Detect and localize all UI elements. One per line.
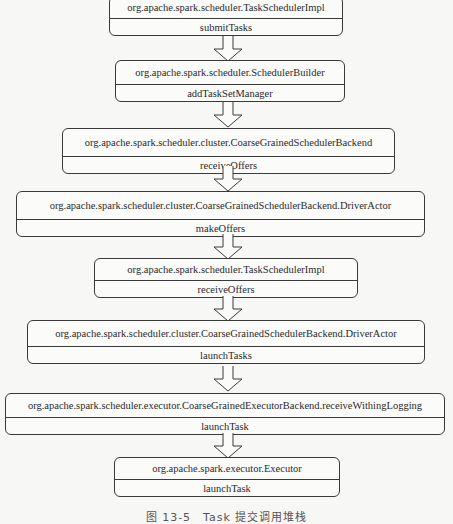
down-arrow-icon: [211, 433, 245, 459]
node-method-label: launchTasks: [28, 347, 424, 363]
node-method-label: launchTask: [115, 480, 339, 496]
node-driver-actor-launch-tasks: org.apache.spark.scheduler.cluster.Coars…: [27, 320, 425, 364]
down-arrow-icon: [211, 166, 245, 192]
node-class-label: org.apache.spark.scheduler.cluster.Coars…: [63, 129, 394, 157]
node-task-scheduler-impl-receive: org.apache.spark.scheduler.TaskScheduler…: [94, 258, 358, 298]
node-class-label: org.apache.spark.executor.Executor: [115, 458, 339, 480]
node-method-label: launchTask: [6, 418, 444, 434]
down-arrow-icon: [211, 102, 245, 128]
down-arrow-icon: [211, 296, 245, 322]
node-driver-actor-make-offers: org.apache.spark.scheduler.cluster.Coars…: [16, 191, 425, 237]
node-class-label: org.apache.spark.scheduler.cluster.Coars…: [28, 321, 424, 347]
down-arrow-icon: [211, 234, 245, 260]
node-class-label: org.apache.spark.scheduler.executor.Coar…: [6, 394, 444, 418]
down-arrow-icon: [211, 36, 245, 62]
node-method-label: receiveOffers: [95, 281, 357, 297]
figure-caption: 图 13-5 Task 提交调用堆栈: [0, 508, 453, 524]
node-coarse-grained-executor-backend: org.apache.spark.scheduler.executor.Coar…: [5, 393, 445, 435]
node-class-label: org.apache.spark.scheduler.TaskScheduler…: [95, 259, 357, 281]
node-executor: org.apache.spark.executor.Executor launc…: [114, 457, 340, 497]
node-scheduler-builder: org.apache.spark.scheduler.SchedulerBuil…: [115, 60, 345, 102]
node-method-label: addTaskSetManager: [116, 85, 344, 101]
node-class-label: org.apache.spark.scheduler.TaskScheduler…: [110, 0, 342, 19]
node-task-scheduler-impl-submit: org.apache.spark.scheduler.TaskScheduler…: [109, 0, 343, 36]
down-arrow-icon: [211, 366, 245, 392]
node-method-label: submitTasks: [110, 19, 342, 35]
node-class-label: org.apache.spark.scheduler.SchedulerBuil…: [116, 61, 344, 85]
node-class-label: org.apache.spark.scheduler.cluster.Coars…: [17, 192, 424, 220]
